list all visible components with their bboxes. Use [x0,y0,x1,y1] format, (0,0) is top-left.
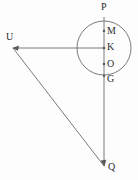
label-m: M [107,26,116,36]
point-marker-k [103,47,106,50]
label-q: Q [108,162,115,172]
geometry-canvas [0,0,138,180]
label-k: K [107,42,114,52]
label-g: G [107,74,114,84]
point-marker-m [103,30,106,33]
point-marker-o [103,63,106,66]
arrowhead-at-u [12,45,19,50]
point-marker-g [103,75,105,77]
label-p: P [101,2,107,12]
label-o: O [107,59,114,69]
geometry-diagram: P M K O G U Q [0,0,138,180]
diagonal-segment-uq [13,48,104,166]
label-u: U [6,32,13,42]
